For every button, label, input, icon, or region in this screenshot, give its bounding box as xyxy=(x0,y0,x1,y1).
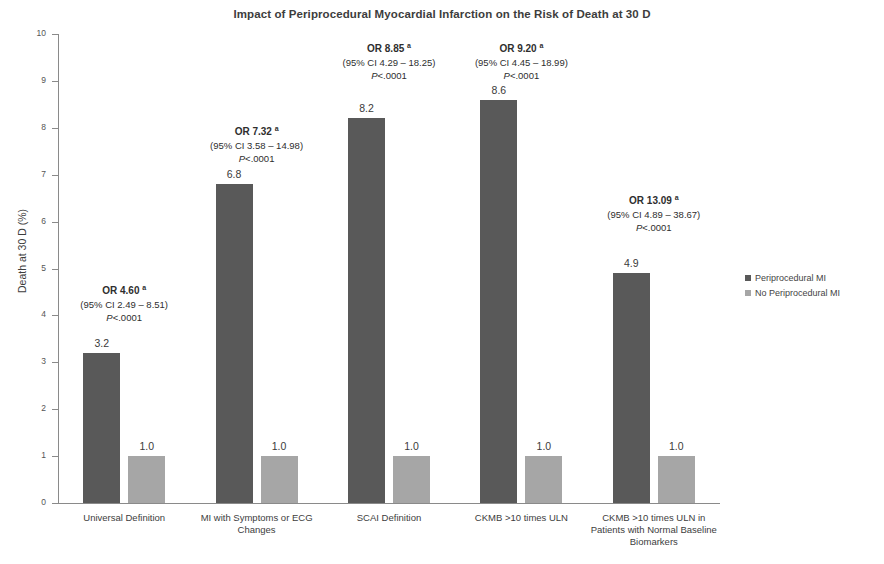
footnote-marker: a xyxy=(675,194,679,201)
odds-ratio-annotation: OR 13.09 a(95% CI 4.89 – 38.67)P<.0001 xyxy=(549,193,759,234)
x-axis-category-label: SCAI Definition xyxy=(319,512,459,524)
y-axis-tick-label: 3 xyxy=(12,357,46,366)
y-axis-tick-label: 9 xyxy=(12,76,46,85)
p-value: P<.0001 xyxy=(152,152,362,165)
chart-title: Impact of Periprocedural Myocardial Infa… xyxy=(0,8,884,20)
y-axis-tick xyxy=(52,269,59,270)
y-axis-tick-label: 1 xyxy=(12,451,46,460)
y-axis-tick-label: 6 xyxy=(12,217,46,226)
bar xyxy=(393,456,430,503)
x-axis-category-label: CKMB >10 times ULN in Patients with Norm… xyxy=(584,512,724,548)
confidence-interval: (95% CI 4.89 – 38.67) xyxy=(549,208,759,221)
footnote-marker: a xyxy=(539,42,543,49)
bar xyxy=(480,100,517,503)
bar-value-label: 1.0 xyxy=(648,441,705,452)
bar xyxy=(348,118,385,503)
confidence-interval: (95% CI 3.58 – 14.98) xyxy=(152,139,362,152)
confidence-interval: (95% CI 2.49 – 8.51) xyxy=(19,298,229,311)
chart-legend: Periprocedural MINo Periprocedural MI xyxy=(745,273,840,303)
y-axis-tick-label: 2 xyxy=(12,404,46,413)
odds-ratio-value: OR 9.20 a xyxy=(416,41,626,56)
bar xyxy=(83,353,120,503)
y-axis-tick xyxy=(52,128,59,129)
p-value: P<.0001 xyxy=(19,311,229,324)
y-axis-tick-label: 5 xyxy=(12,264,46,273)
y-axis-tick-label: 8 xyxy=(12,123,46,132)
y-axis-tick xyxy=(52,81,59,82)
bar xyxy=(658,456,695,503)
bar xyxy=(128,456,165,503)
odds-ratio-annotation: OR 9.20 a(95% CI 4.45 – 18.99)P<.0001 xyxy=(416,41,626,82)
p-value: P<.0001 xyxy=(416,69,626,82)
bar-value-label: 4.9 xyxy=(603,258,660,269)
y-axis-tick xyxy=(52,456,59,457)
odds-ratio-annotation: OR 7.32 a(95% CI 3.58 – 14.98)P<.0001 xyxy=(152,124,362,165)
y-axis-tick xyxy=(52,175,59,176)
odds-ratio-value: OR 4.60 a xyxy=(19,283,229,298)
bar-value-label: 1.0 xyxy=(383,441,440,452)
odds-ratio-annotation: OR 4.60 a(95% CI 2.49 – 8.51)P<.0001 xyxy=(19,283,229,324)
y-axis-tick xyxy=(52,409,59,410)
bar-value-label: 1.0 xyxy=(515,441,572,452)
p-value: P<.0001 xyxy=(549,221,759,234)
odds-ratio-value: OR 13.09 a xyxy=(549,193,759,208)
odds-ratio-value: OR 7.32 a xyxy=(152,124,362,139)
bar xyxy=(261,456,298,503)
legend-item[interactable]: No Periprocedural MI xyxy=(745,288,840,298)
x-axis-category-label: MI with Symptoms or ECG Changes xyxy=(187,512,327,536)
x-axis-line xyxy=(58,503,720,504)
legend-item[interactable]: Periprocedural MI xyxy=(745,273,840,283)
y-axis-tick-label: 7 xyxy=(12,170,46,179)
footnote-marker: a xyxy=(407,42,411,49)
bar-value-label: 8.6 xyxy=(470,85,527,96)
x-axis-category-label: CKMB >10 times ULN xyxy=(451,512,591,524)
legend-swatch-icon xyxy=(745,290,751,296)
confidence-interval: (95% CI 4.45 – 18.99) xyxy=(416,56,626,69)
y-axis-tick xyxy=(52,503,59,504)
footnote-marker: a xyxy=(142,284,146,291)
y-axis-tick-label: 0 xyxy=(12,498,46,507)
bar-value-label: 8.2 xyxy=(338,103,395,114)
bar xyxy=(613,273,650,503)
y-axis-tick xyxy=(52,34,59,35)
y-axis-tick-label: 10 xyxy=(12,29,46,38)
x-axis-category-label: Universal Definition xyxy=(54,512,194,524)
bar-value-label: 6.8 xyxy=(206,169,263,180)
legend-swatch-icon xyxy=(745,275,751,281)
caption-sliver xyxy=(0,556,884,564)
bar-value-label: 1.0 xyxy=(118,441,175,452)
legend-label: Periprocedural MI xyxy=(755,273,826,283)
y-axis-tick xyxy=(52,222,59,223)
footnote-marker: a xyxy=(275,125,279,132)
chart-figure: Impact of Periprocedural Myocardial Infa… xyxy=(0,0,884,564)
y-axis-tick xyxy=(52,362,59,363)
bar xyxy=(525,456,562,503)
bar xyxy=(216,184,253,503)
bar-value-label: 1.0 xyxy=(251,441,308,452)
legend-label: No Periprocedural MI xyxy=(755,288,840,298)
bar-value-label: 3.2 xyxy=(73,338,130,349)
